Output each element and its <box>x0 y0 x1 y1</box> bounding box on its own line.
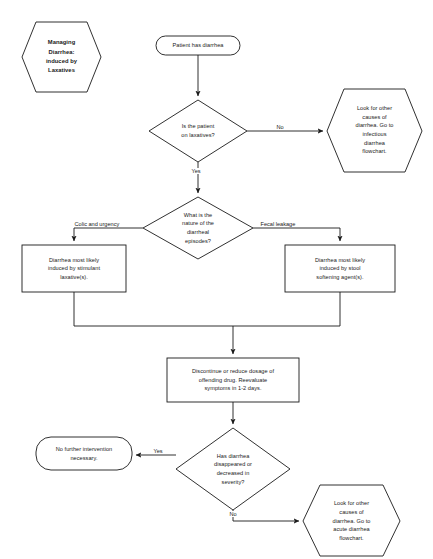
title-hexagon-shape <box>22 22 101 92</box>
edge-improved-no <box>233 510 299 521</box>
edge-softener-to-merge <box>233 292 340 326</box>
edge-nature-colic <box>74 228 143 241</box>
decision-improved-shape <box>176 428 290 510</box>
decision-on-laxatives-shape <box>149 100 247 162</box>
discontinue-box-shape <box>167 358 299 402</box>
infectious-referral-shape <box>327 89 422 172</box>
edge-label-laxatives-no: No <box>275 124 285 130</box>
edge-label-nature-fecal: Fecal leakage <box>259 221 297 227</box>
start-shape <box>156 36 240 55</box>
edge-label-nature-colic: Colic and urgency <box>73 221 121 227</box>
flowchart-graphics <box>0 0 433 559</box>
decision-nature-shape <box>143 197 253 259</box>
edge-label-improved-no: No <box>228 511 238 517</box>
stimulant-box-shape <box>22 245 126 292</box>
acute-referral-shape <box>303 485 400 556</box>
stool-softener-box-shape <box>285 245 395 292</box>
edge-label-laxatives-yes: Yes <box>190 168 202 174</box>
no-intervention-shape <box>36 437 132 470</box>
edge-nature-fecal <box>253 228 340 241</box>
edge-stimulant-to-merge <box>74 292 233 326</box>
flowchart-canvas: Managing Diarrhea: induced by Laxatives … <box>0 0 433 559</box>
edge-label-improved-yes: Yes <box>152 448 164 454</box>
